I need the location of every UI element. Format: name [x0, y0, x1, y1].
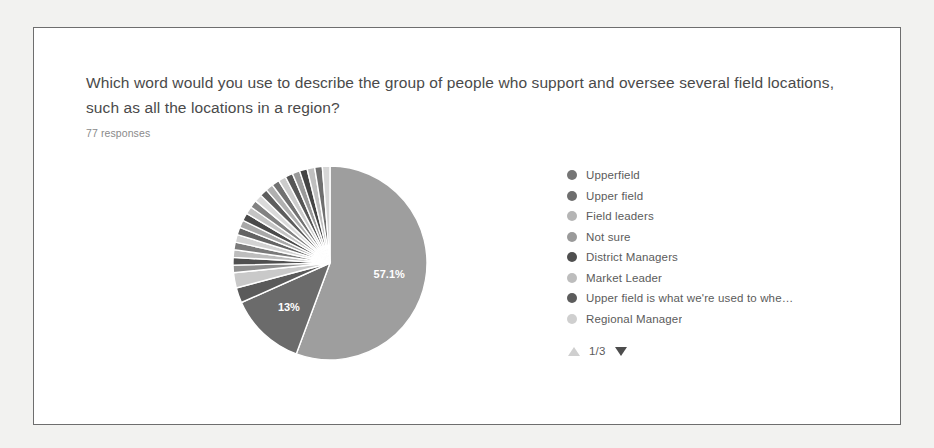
- response-count: 77 responses: [86, 127, 856, 139]
- legend-swatch-icon: [567, 293, 577, 303]
- legend-swatch-icon: [567, 314, 577, 324]
- survey-result-card: Which word would you use to describe the…: [33, 27, 901, 425]
- triangle-up-icon[interactable]: [568, 347, 580, 356]
- legend-swatch-icon: [567, 273, 577, 283]
- legend-item-label: District Managers: [586, 251, 678, 263]
- legend-item[interactable]: Not sure: [567, 227, 867, 248]
- legend-item[interactable]: District Managers: [567, 247, 867, 268]
- triangle-down-icon[interactable]: [615, 347, 627, 356]
- page-title: Which word would you use to describe the…: [86, 70, 856, 120]
- legend-item-label: Field leaders: [586, 210, 654, 222]
- legend-item-label: Market Leader: [586, 272, 662, 284]
- legend-items: UpperfieldUpper fieldField leadersNot su…: [567, 165, 867, 329]
- pie-slice-label: 57.1%: [374, 268, 405, 280]
- chart-legend: UpperfieldUpper fieldField leadersNot su…: [567, 165, 867, 357]
- legend-item[interactable]: Field leaders: [567, 206, 867, 227]
- legend-item-label: Upper field is what we're used to whe…: [586, 292, 793, 304]
- pie-slices: [233, 166, 427, 360]
- legend-swatch-icon: [567, 191, 577, 201]
- pie-chart: 57.1%13%: [230, 163, 430, 363]
- chart-area: 57.1%13% UpperfieldUpper fieldField lead…: [34, 153, 902, 418]
- legend-swatch-icon: [567, 252, 577, 262]
- question-block: Which word would you use to describe the…: [86, 70, 856, 139]
- legend-item[interactable]: Upper field is what we're used to whe…: [567, 288, 867, 309]
- pager-count: 1/3: [589, 345, 606, 357]
- legend-item-label: Not sure: [586, 231, 631, 243]
- pie-slice-label: 13%: [278, 301, 300, 313]
- legend-item[interactable]: Market Leader: [567, 268, 867, 289]
- legend-swatch-icon: [567, 211, 577, 221]
- legend-item[interactable]: Upperfield: [567, 165, 867, 186]
- legend-item[interactable]: Regional Manager: [567, 309, 867, 330]
- legend-item-label: Upperfield: [586, 169, 640, 181]
- legend-item-label: Upper field: [586, 190, 643, 202]
- legend-pager[interactable]: 1/3: [568, 345, 867, 357]
- legend-item[interactable]: Upper field: [567, 186, 867, 207]
- legend-item-label: Regional Manager: [586, 313, 682, 325]
- legend-swatch-icon: [567, 232, 577, 242]
- legend-swatch-icon: [567, 170, 577, 180]
- pie-chart-svg: 57.1%13%: [230, 163, 430, 363]
